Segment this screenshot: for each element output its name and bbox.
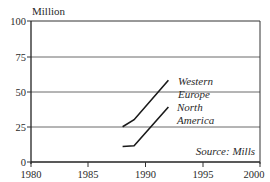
source-annotation: Source: Mills — [196, 145, 255, 157]
y-tick-100: 100 — [10, 16, 26, 27]
y-tick-0: 0 — [21, 157, 26, 168]
x-tick-1985: 1985 — [78, 169, 99, 180]
y-tick-75: 75 — [16, 52, 27, 63]
y-axis: 100 75 50 25 0 Million — [10, 5, 65, 168]
north-america-label-line2: America — [176, 114, 215, 126]
y-axis-label: Million — [32, 5, 66, 17]
y-tick-25: 25 — [16, 122, 27, 133]
x-tick-1990: 1990 — [135, 169, 156, 180]
x-axis: 1980 1985 1990 1995 2000 — [21, 162, 265, 180]
x-tick-1995: 1995 — [193, 169, 214, 180]
x-tick-1980: 1980 — [21, 169, 42, 180]
north-america-label-line1: North — [176, 101, 203, 113]
series-north-america: North America — [123, 101, 215, 147]
line-chart: 100 75 50 25 0 Million 1980 1985 1990 19… — [0, 0, 270, 182]
western-europe-label-line1: Western — [178, 75, 214, 87]
x-tick-2000: 2000 — [244, 169, 265, 180]
y-tick-50: 50 — [16, 87, 27, 98]
plot-frame — [31, 21, 260, 164]
western-europe-label-line2: Europe — [177, 88, 210, 100]
